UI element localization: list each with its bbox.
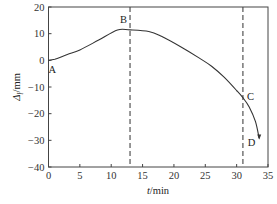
arrow-head — [257, 134, 261, 139]
y-tick-label: 10 — [34, 28, 45, 39]
y-axis-ticks: 20100−10−20−30−40 — [28, 2, 51, 173]
x-tick-label: 15 — [137, 170, 148, 181]
line-chart: 20100−10−20−30−40 05101520253035 ABCD t/… — [0, 0, 277, 204]
x-tick-label: 0 — [46, 170, 51, 181]
y-axis-label: Δl/mm — [11, 73, 25, 102]
plot-frame — [49, 7, 269, 167]
point-annotations: ABCD — [49, 14, 256, 149]
x-tick-label: 25 — [200, 170, 211, 181]
point-label-d: D — [248, 137, 256, 148]
y-tick-label: −40 — [28, 162, 44, 173]
curve-end-arrow-icon — [257, 134, 261, 139]
point-label-c: C — [247, 91, 254, 102]
data-curve — [49, 29, 260, 138]
y-tick-label: −10 — [28, 82, 44, 93]
y-tick-label: 20 — [34, 2, 45, 13]
x-axis-label: t/min — [147, 185, 170, 196]
point-label-b: B — [120, 14, 127, 25]
x-tick-label: 20 — [169, 170, 180, 181]
x-tick-label: 10 — [106, 170, 117, 181]
y-tick-label: 0 — [39, 55, 44, 66]
y-tick-label: −30 — [28, 135, 44, 146]
point-label-a: A — [49, 64, 57, 75]
plot-border — [49, 7, 269, 167]
x-tick-label: 35 — [263, 170, 274, 181]
x-tick-label: 5 — [77, 170, 82, 181]
x-tick-label: 30 — [231, 170, 242, 181]
y-tick-label: −20 — [28, 108, 44, 119]
